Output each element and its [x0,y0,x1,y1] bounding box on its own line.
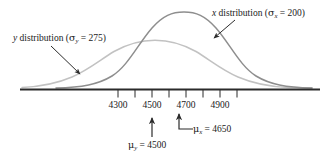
x-distribution-curve [56,12,312,88]
y-distribution-equals: = [78,33,88,43]
mu-y-label: μy = 4500 [128,140,166,152]
x-distribution-value: 200 [288,8,302,18]
y-distribution-curve [22,40,312,88]
mu-y-equals: = [137,140,147,150]
y-distribution-text-after: ) [103,33,106,43]
normal-distribution-figure: y distribution (σy = 275) x distribution… [0,0,336,163]
y-distribution-label: y distribution (σy = 275) [13,33,106,45]
axis-tick-label-4900: 4900 [200,100,240,110]
x-distribution-equals: = [277,8,287,18]
y-distribution-text-before: distribution ( [17,33,69,43]
x-distribution-text-after: ) [302,8,305,18]
mu-x-equals: = [202,124,212,134]
distribution-plot [0,0,336,163]
x-distribution-label: x distribution (σx = 200) [212,8,305,20]
y-distribution-value: 275 [89,33,103,43]
mu-x-value: 4650 [212,124,231,134]
mu-x-label: μx = 4650 [193,124,231,136]
axis-ticks [118,90,237,98]
y-distribution-leader-arrow [51,46,80,74]
x-distribution-text-before: distribution ( [216,8,268,18]
mu-y-value: 4500 [147,140,166,150]
mu-x-pointer-arrow [179,114,193,129]
